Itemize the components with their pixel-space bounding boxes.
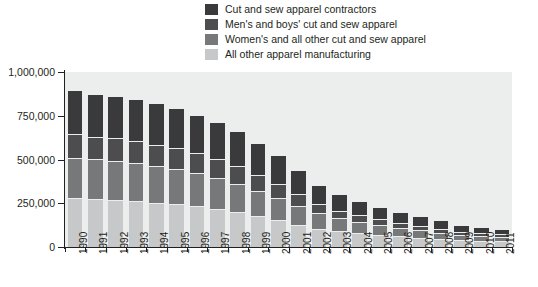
legend-item[interactable]: Cut and sew apparel contractors [205,2,426,16]
bar-segment [190,154,205,174]
bar-1991[interactable] [88,95,103,247]
bar-segment [108,162,123,201]
legend-swatch-icon [205,34,218,45]
x-axis-tick-label: 2004 [364,232,374,254]
bar-segment [230,185,245,214]
bar-segment [332,195,347,211]
stacked-bar-chart: Cut and sew apparel contractorsMen's and… [0,0,538,287]
bar-segment [251,144,266,176]
x-axis-tick-label: 2007 [425,232,435,254]
x-axis-tick-label: 2002 [323,232,333,254]
bar-segment [129,142,144,164]
bar-segment [312,205,327,214]
legend-item-label: All other apparel manufacturing [225,49,371,60]
x-axis-tick-label: 1990 [79,232,89,254]
bar-segment [68,135,83,159]
legend-swatch-icon [205,49,218,60]
bar-segment [312,214,327,229]
bar-1992[interactable] [108,97,123,247]
bar-segment [434,221,449,229]
y-axis-tick-label: 250,000 [0,197,55,209]
bar-1996[interactable] [190,116,205,247]
bar-segment [149,167,164,204]
x-axis-tick-label: 1998 [242,232,252,254]
x-axis-tick-label: 2000 [282,232,292,254]
chart-legend: Cut and sew apparel contractorsMen's and… [205,2,426,61]
x-axis-tick-label: 1993 [140,232,150,254]
bar-segment [68,91,83,135]
bar-segment [332,212,347,220]
legend-item-label: Cut and sew apparel contractors [225,4,376,15]
bar-segment [271,185,286,199]
bar-segment [210,179,225,211]
bar-segment [332,219,347,232]
bar-1993[interactable] [129,100,144,247]
legend-item-label: Women's and all other cut and sew appare… [225,34,426,45]
bar-segment [129,164,144,202]
legend-item[interactable]: All other apparel manufacturing [205,47,426,61]
y-axis-tick [58,116,65,117]
y-axis-tick-label: 1,000,000 [0,66,55,78]
bar-segment [271,199,286,222]
bar-1994[interactable] [149,104,164,247]
legend-swatch-icon [205,19,218,30]
bar-segment [129,100,144,142]
bar-segment [169,149,184,170]
x-axis-tick-label: 1997 [221,232,231,254]
legend-swatch-icon [205,4,218,15]
bar-1990[interactable] [68,91,83,247]
x-axis-tick-label: 2001 [303,232,313,254]
bar-segment [190,116,205,155]
bar-segment [291,195,306,206]
y-axis-tick [58,72,65,73]
bar-segment [88,95,103,138]
bar-segment [108,97,123,140]
bar-segment [251,192,266,218]
bar-1995[interactable] [169,109,184,247]
bar-segment [169,109,184,149]
bar-segment [108,139,123,161]
bar-segment [190,174,205,208]
x-axis-tick-label: 2003 [343,232,353,254]
legend-item[interactable]: Women's and all other cut and sew appare… [205,32,426,46]
y-axis-tick-label: 0 [0,241,55,253]
bar-segment [251,176,266,191]
plot-area [65,72,512,247]
x-axis-tick-label: 2010 [486,232,496,254]
legend-item[interactable]: Men's and boys' cut and sew apparel [205,17,426,31]
bar-segment [312,186,327,205]
bar-1997[interactable] [210,123,225,247]
bar-segment [230,167,245,184]
bar-segment [169,170,184,205]
x-axis-tick-label: 1992 [120,232,130,254]
legend-item-label: Men's and boys' cut and sew apparel [225,19,397,30]
y-axis-tick [58,160,65,161]
x-axis-tick-label: 1999 [262,232,272,254]
bar-segment [291,171,306,196]
bar-segment [68,159,83,199]
bar-segment [393,213,408,224]
y-axis-tick-label: 750,000 [0,110,55,122]
x-axis-tick-label: 2009 [465,232,475,254]
bar-1998[interactable] [230,132,245,247]
bar-segment [210,160,225,178]
bar-segment [149,146,164,167]
x-axis-tick-label: 1991 [99,232,109,254]
x-axis-tick-label: 1994 [160,232,170,254]
y-axis-tick [58,247,65,248]
bar-segment [230,132,245,168]
x-axis-tick [65,247,66,252]
bar-segment [352,216,367,223]
bar-segment [88,138,103,161]
bar-segment [88,160,103,200]
x-axis-tick-label: 2006 [404,232,414,254]
bar-segment [271,156,286,185]
x-axis-tick-label: 1996 [201,232,211,254]
y-axis-labels: 1,000,000750,000500,000250,0000 [0,0,57,287]
bar-segment [210,123,225,161]
x-axis-tick-label: 2011 [506,232,516,254]
bar-segment [149,104,164,145]
bar-segment [352,202,367,216]
x-axis-tick-label: 2008 [445,232,455,254]
x-axis-tick-label: 1995 [181,232,191,254]
